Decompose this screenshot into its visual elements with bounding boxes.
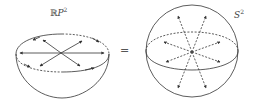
equals-sign: = [120, 44, 129, 57]
radial-arrow-icon [178, 16, 192, 52]
radial-arrow-icon [192, 16, 206, 52]
sphere [146, 5, 238, 97]
radial-arrow-icon [164, 42, 192, 52]
rp2-label-sup: 2 [64, 6, 68, 13]
diameter-arrow-icon [61, 41, 82, 53]
diameter-arrow-icon [40, 53, 61, 66]
equator-back-dashed [146, 32, 238, 51]
rim-bottom-solid [62, 54, 109, 72]
rim-top-dashed [62, 34, 109, 54]
rim-arrow-icon [92, 38, 99, 42]
diameter-arrow-icon [61, 53, 80, 66]
hemisphere-bowl [16, 54, 109, 98]
rim-arrow-icon [85, 68, 94, 70]
equator-front-solid [146, 51, 238, 70]
diameter-arrow-icon [43, 40, 61, 53]
s2-label: S2 [234, 8, 244, 20]
radial-arrow-icon [192, 52, 220, 62]
radial-arrow-icon [192, 42, 220, 52]
radial-arrow-icon [166, 52, 192, 62]
s2-label-sup: 2 [240, 8, 244, 15]
rp2-label: ℝP2 [50, 6, 67, 18]
hemisphere [16, 34, 109, 98]
